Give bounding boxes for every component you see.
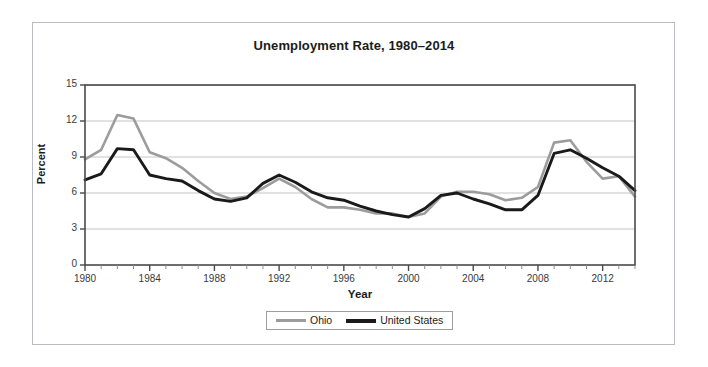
axis-frame [85,85,635,265]
legend-label: Ohio [310,315,332,326]
plot-area: 03691215 1980198419881992199620002004200… [0,0,708,367]
legend-entry-united-states: United States [346,315,443,326]
data-series-layer [85,115,635,217]
y-tick-label: 0 [53,258,77,269]
x-tick-label: 2008 [518,273,558,284]
legend-label: United States [380,315,443,326]
legend-entry-ohio: Ohio [276,315,332,326]
chart-figure: Unemployment Rate, 1980–2014 03691215 19… [0,0,708,367]
x-tick-label: 1988 [194,273,234,284]
y-tick-label: 9 [53,150,77,161]
y-axis-title: Percent [35,114,47,214]
plot-frame [85,85,635,265]
x-axis-title: Year [85,288,635,300]
y-tick-label: 15 [53,78,77,89]
x-tick-label: 2012 [583,273,623,284]
x-tick-label: 1984 [130,273,170,284]
x-tick-label: 1980 [65,273,105,284]
y-tick-label: 6 [53,186,77,197]
legend-swatch [346,319,376,323]
y-tick-label: 12 [53,114,77,125]
y-tick-label: 3 [53,222,77,233]
x-tick-label: 2004 [453,273,493,284]
chart-legend: OhioUnited States [266,311,453,330]
legend-swatch [276,319,306,322]
series-line-ohio [85,115,635,217]
x-tick-label: 1996 [324,273,364,284]
x-tick-label: 2000 [389,273,429,284]
x-tick-label: 1992 [259,273,299,284]
